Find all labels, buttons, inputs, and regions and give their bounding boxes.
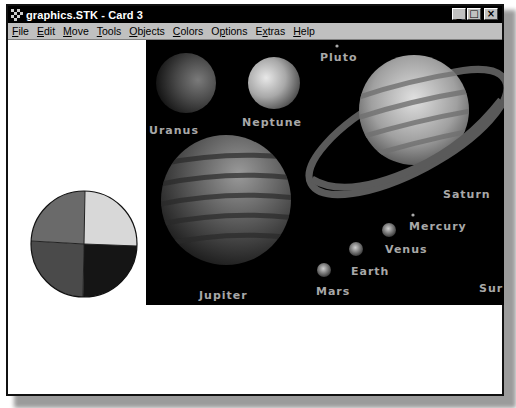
mars-planet [317,263,331,277]
menu-move-accel: M [63,25,72,37]
menu-file[interactable]: File [8,25,33,37]
menu-file-label: ile [18,25,29,37]
menu-move-label: ove [72,25,89,37]
solar-system-image[interactable]: Pluto Uranus Neptune Saturn Mercury Venu… [146,40,504,305]
window-title: graphics.STK - Card 3 [26,9,143,21]
menu-extras[interactable]: Extras [251,25,289,37]
menu-move[interactable]: Move [59,25,93,37]
pie-slice-top-right [84,189,139,246]
menu-tools[interactable]: Tools [93,25,126,37]
label-mercury: Mercury [409,220,467,233]
title-bar[interactable]: graphics.STK - Card 3 _ □ × [8,6,502,23]
close-button[interactable]: × [484,8,498,20]
menu-options[interactable]: Options [207,25,251,37]
app-window: graphics.STK - Card 3 _ □ × File Edit Mo… [6,4,504,396]
label-saturn: Saturn [443,188,491,201]
label-earth: Earth [351,265,389,278]
pluto-planet [335,44,338,47]
menu-edit[interactable]: Edit [33,25,59,37]
menu-help-accel: H [293,25,301,37]
venus-planet [382,223,396,237]
menu-options-label: tions [225,25,247,37]
label-sun: Sur [479,282,503,295]
earth-planet [349,242,363,256]
label-pluto: Pluto [320,51,357,64]
label-uranus: Uranus [149,124,199,137]
menu-edit-accel: E [37,25,44,37]
planets-graphic [146,40,504,305]
menu-extras-label: tras [268,25,286,37]
pie-slice-top-left [29,189,85,244]
pie-chart-graphic[interactable] [29,189,139,299]
label-mars: Mars [316,285,350,298]
card-canvas[interactable]: Pluto Uranus Neptune Saturn Mercury Venu… [8,40,502,394]
menu-objects-label: bjects [137,25,164,37]
menu-tools-label: ools [102,25,121,37]
menu-colors[interactable]: Colors [169,25,207,37]
label-jupiter: Jupiter [199,289,248,302]
stack-app-icon[interactable] [11,9,23,21]
menu-objects[interactable]: Objects [125,25,169,37]
label-neptune: Neptune [242,116,302,129]
menu-help-label: elp [301,25,315,37]
menu-colors-label: olors [180,25,203,37]
menu-edit-label: dit [44,25,55,37]
maximize-button[interactable]: □ [467,8,481,20]
uranus-planet [156,53,216,113]
pie-slice-bottom-right [83,244,139,299]
menu-help[interactable]: Help [289,25,319,37]
minimize-button[interactable]: _ [452,8,466,20]
menu-bar: File Edit Move Tools Objects Colors Opti… [8,23,502,40]
mercury-planet [411,213,414,216]
label-venus: Venus [385,243,428,256]
neptune-planet [248,57,300,109]
